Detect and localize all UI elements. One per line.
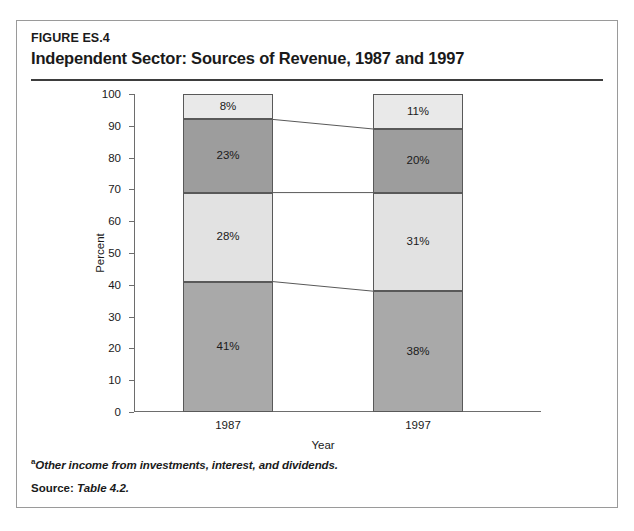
source-value: Table 4.2. xyxy=(77,482,129,494)
x-tick-label-1997: 1997 xyxy=(373,419,463,431)
bar-segment: 31% xyxy=(373,193,463,292)
connector-line xyxy=(273,119,373,129)
figure-header: FIGURE ES.4 Independent Sector: Sources … xyxy=(31,31,603,68)
y-tick-label-90: 90 xyxy=(108,120,121,132)
figure-number: FIGURE ES.4 xyxy=(31,31,603,46)
y-tick-30: 30 xyxy=(129,317,134,318)
y-tick-label-0: 0 xyxy=(115,406,121,418)
y-tick-100: 100 xyxy=(129,94,134,95)
bar-segment-label: 8% xyxy=(220,101,237,113)
bar-segment-label: 20% xyxy=(406,155,429,167)
source-line: Source: Table 4.2. xyxy=(31,482,129,494)
bar-segment-label: 11% xyxy=(407,106,429,118)
bar-segment: 23% xyxy=(183,119,273,192)
y-tick-label-70: 70 xyxy=(108,183,121,195)
bar-segment: 20% xyxy=(373,129,463,193)
bar-segment-label: 23% xyxy=(216,150,239,162)
footnote: aOther income from investments, interest… xyxy=(31,459,338,471)
y-tick-label-10: 10 xyxy=(108,374,121,386)
y-tick-80: 80 xyxy=(129,158,134,159)
figure-card: FIGURE ES.4 Independent Sector: Sources … xyxy=(16,20,618,508)
x-tick-label-1987: 1987 xyxy=(183,419,273,431)
y-tick-label-30: 30 xyxy=(108,311,121,323)
bar-segment-label: 38% xyxy=(406,346,429,358)
y-tick-label-20: 20 xyxy=(108,342,121,354)
y-axis-line xyxy=(134,94,135,412)
title-divider xyxy=(31,79,603,81)
y-tick-40: 40 xyxy=(129,285,134,286)
bar-segment: 8% xyxy=(183,94,273,119)
y-tick-50: 50 xyxy=(129,253,134,254)
y-tick-label-100: 100 xyxy=(102,88,121,100)
y-tick-0: 0 xyxy=(129,412,134,413)
figure-title: Independent Sector: Sources of Revenue, … xyxy=(31,48,603,68)
chart-plot-area: Percent 0102030405060708090100 41%28%23%… xyxy=(134,94,541,412)
bar-segment-label: 31% xyxy=(406,236,429,248)
bar-segment: 38% xyxy=(373,291,463,412)
connector-line xyxy=(273,282,373,292)
y-tick-70: 70 xyxy=(129,189,134,190)
bar-segment: 28% xyxy=(183,193,273,282)
bar-segment: 41% xyxy=(183,282,273,412)
source-label: Source: xyxy=(31,482,74,494)
y-tick-20: 20 xyxy=(129,348,134,349)
y-tick-10: 10 xyxy=(129,380,134,381)
y-tick-60: 60 xyxy=(129,221,134,222)
y-tick-label-40: 40 xyxy=(108,279,121,291)
y-tick-90: 90 xyxy=(129,126,134,127)
bar-segment-label: 28% xyxy=(216,231,239,243)
y-tick-label-60: 60 xyxy=(108,215,121,227)
bar-segment-label: 41% xyxy=(216,341,239,353)
x-axis-title: Year xyxy=(183,439,463,451)
footnote-text: Other income from investments, interest,… xyxy=(35,459,338,471)
y-tick-label-80: 80 xyxy=(108,152,121,164)
bar-segment: 11% xyxy=(373,94,463,129)
y-axis-title: Percent xyxy=(94,233,106,273)
y-tick-label-50: 50 xyxy=(108,247,121,259)
